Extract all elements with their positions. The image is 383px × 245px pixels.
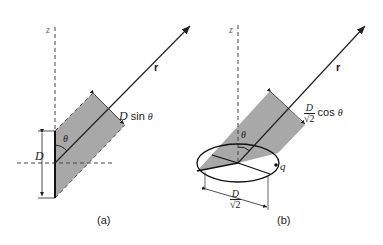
- d-root2-radius-label: D√2: [230, 189, 241, 210]
- r-vector-b: [238, 26, 365, 163]
- radius-to-q: [238, 163, 270, 174]
- panel-a: [17, 26, 190, 198]
- q-label: q: [280, 161, 286, 172]
- r-label-a: r: [154, 62, 158, 73]
- z-axis-label-b: z: [229, 25, 233, 35]
- r-label-b: r: [336, 62, 340, 73]
- theta-label-b: θ: [241, 130, 246, 140]
- caption-a: (a): [97, 215, 110, 226]
- charge-q-dot: [274, 163, 278, 167]
- d-root2-cos-theta-label: D√2 cos θ: [304, 103, 343, 124]
- shaded-band-a: [55, 93, 125, 198]
- r-vector-a: [55, 26, 190, 163]
- z-axis-label-a: z: [46, 25, 50, 35]
- shaded-region-b: [197, 91, 305, 171]
- d-sin-theta-label: D sin θ: [119, 110, 153, 122]
- theta-label-a: θ: [63, 134, 68, 144]
- d-label: D: [35, 150, 44, 162]
- caption-b: (b): [277, 215, 290, 226]
